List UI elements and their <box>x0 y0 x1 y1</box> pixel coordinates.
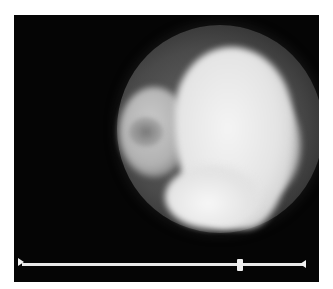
scope-image <box>117 25 319 233</box>
end-marker-icon[interactable] <box>300 260 306 268</box>
timeline-track[interactable] <box>22 263 305 266</box>
video-player <box>14 15 319 282</box>
start-marker-icon[interactable] <box>18 258 24 266</box>
video-frame <box>14 15 319 255</box>
timeline-thumb[interactable] <box>237 259 243 271</box>
image-region <box>165 165 261 229</box>
timeline-slider[interactable] <box>14 255 319 282</box>
image-region <box>129 117 163 147</box>
